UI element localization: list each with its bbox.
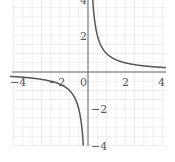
grid-lines — [12, 0, 166, 146]
y-tick-label: 4 — [80, 0, 87, 7]
x-tick-label: 0 — [80, 76, 87, 89]
y-tick-label: −4 — [91, 140, 107, 153]
y-tick-label: −2 — [91, 103, 107, 116]
y-tick-label: 2 — [80, 30, 87, 43]
x-tick-label: −4 — [10, 76, 26, 89]
function-plot: −4 −2 0 2 4 4 2 −2 −4 — [0, 0, 175, 162]
x-tick-label: 2 — [122, 76, 129, 89]
x-tick-label: 4 — [158, 76, 165, 89]
curve-positive-branch — [93, 0, 166, 68]
x-tick-label: −2 — [49, 76, 65, 89]
